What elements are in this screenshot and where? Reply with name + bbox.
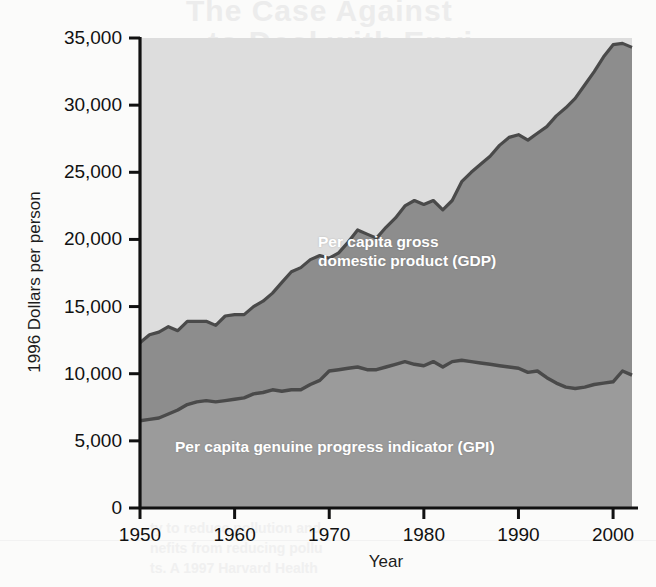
y-tick-label-10000: 10,000: [0, 363, 122, 385]
x-axis-title: Year: [140, 552, 632, 572]
y-tick-label-0: 0: [0, 497, 122, 519]
y-tick-label-30000: 30,000: [0, 94, 122, 116]
y-tick-label-5000: 5,000: [0, 430, 122, 452]
x-tick-label-1960: 1960: [213, 524, 255, 546]
y-axis-title: 1996 Dollars per person: [25, 162, 45, 402]
y-tick-label-15000: 15,000: [0, 296, 122, 318]
y-tick-label-35000: 35,000: [0, 27, 122, 49]
x-tick-label-1980: 1980: [403, 524, 445, 546]
series-annotation-gpi: Per capita genuine progress indicator (G…: [175, 437, 495, 456]
y-tick-label-20000: 20,000: [0, 228, 122, 250]
x-tick-label-2000: 2000: [592, 524, 634, 546]
gdp-gpi-area-chart: 05,00010,00015,00020,00025,00030,00035,0…: [0, 0, 656, 587]
x-tick-label-1970: 1970: [308, 524, 350, 546]
series-annotation-gdp-line-1: Per capita gross: [318, 233, 439, 250]
x-tick-label-1990: 1990: [497, 524, 539, 546]
y-tick-label-25000: 25,000: [0, 161, 122, 183]
figure-page: The Case Against to Deal with Envi Envir…: [0, 0, 656, 587]
series-annotation-gdp-line-2: domestic product (GDP): [318, 252, 496, 269]
x-tick-label-1950: 1950: [119, 524, 161, 546]
series-annotation-gdp: Per capita gross domestic product (GDP): [318, 232, 496, 271]
